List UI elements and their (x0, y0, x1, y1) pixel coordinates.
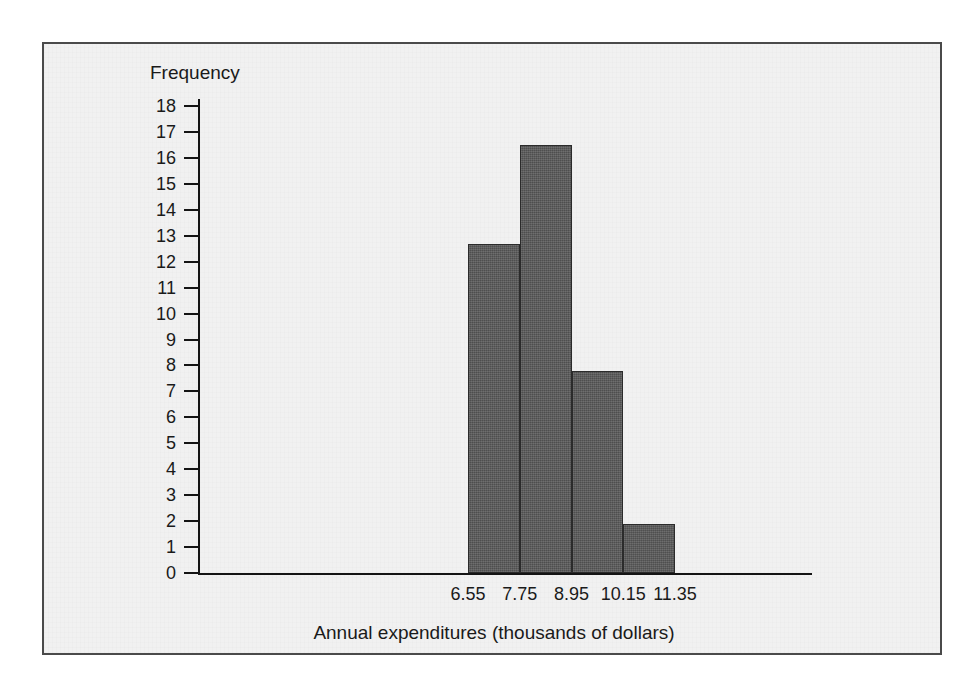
x-axis-tick-label: 11.35 (635, 584, 715, 605)
figure-frame: Frequency 1817161514131211109876543210 6… (42, 42, 942, 655)
y-axis-tick (184, 235, 200, 237)
y-axis-tick-label: 8 (116, 356, 176, 374)
y-axis-tick-label: 3 (116, 486, 176, 504)
y-axis-tick (184, 468, 200, 470)
y-axis-tick-label: 0 (116, 564, 176, 582)
histogram-bar (468, 244, 520, 573)
y-axis-tick-label: 17 (116, 123, 176, 141)
y-axis-tick (184, 157, 200, 159)
y-axis-tick (184, 183, 200, 185)
y-axis-tick (184, 261, 200, 263)
y-axis-tick (184, 494, 200, 496)
y-axis-tick (184, 105, 200, 107)
y-axis-tick-label: 6 (116, 408, 176, 426)
y-axis-tick-label: 7 (116, 382, 176, 400)
y-axis-tick-label: 4 (116, 460, 176, 478)
y-axis-tick-label: 11 (116, 279, 176, 297)
x-axis-title: Annual expenditures (thousands of dollar… (44, 622, 944, 644)
y-axis-tick (184, 572, 200, 574)
y-axis-tick-label: 15 (116, 175, 176, 193)
y-axis-title: Frequency (150, 62, 240, 84)
y-axis-tick-label: 13 (116, 227, 176, 245)
scanned-page: Frequency 1817161514131211109876543210 6… (0, 0, 976, 694)
y-axis-tick (184, 287, 200, 289)
histogram-bar (623, 524, 675, 573)
histogram-bar (572, 371, 624, 573)
y-axis-tick (184, 339, 200, 341)
histogram-bar (520, 145, 572, 573)
y-axis-line (198, 99, 200, 575)
y-axis-tick (184, 209, 200, 211)
y-axis-tick-label: 14 (116, 201, 176, 219)
y-axis-tick (184, 520, 200, 522)
y-axis-tick-label: 16 (116, 149, 176, 167)
y-axis-tick-label: 12 (116, 253, 176, 271)
y-axis-tick (184, 364, 200, 366)
histogram-plot: Frequency 1817161514131211109876543210 6… (44, 44, 940, 653)
y-axis-tick-label: 2 (116, 512, 176, 530)
y-axis-tick (184, 313, 200, 315)
y-axis-tick-label: 5 (116, 434, 176, 452)
y-axis-tick-label: 9 (116, 331, 176, 349)
y-axis-tick (184, 131, 200, 133)
y-axis-tick-label: 18 (116, 97, 176, 115)
y-axis-tick (184, 416, 200, 418)
y-axis-tick-label: 10 (116, 305, 176, 323)
x-axis-line (198, 573, 812, 575)
y-axis-tick (184, 390, 200, 392)
y-axis-tick (184, 442, 200, 444)
y-axis-tick-label: 1 (116, 538, 176, 556)
y-axis-tick (184, 546, 200, 548)
